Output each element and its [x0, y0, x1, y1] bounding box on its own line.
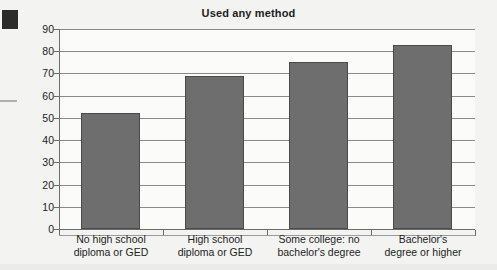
y-axis-tick-mark — [54, 51, 59, 52]
y-axis-tick-mark — [54, 207, 59, 208]
y-axis-tick-label: 70 — [28, 67, 54, 79]
x-axis-category-label: Some college: nobachelor's degree — [267, 233, 371, 259]
bar-chart-figure: Used any method 0102030405060708090 No h… — [0, 0, 497, 270]
x-axis-category-label: Bachelor'sdegree or higher — [371, 233, 475, 259]
y-axis-tick-mark — [54, 162, 59, 163]
y-axis-tick-label: 90 — [28, 23, 54, 35]
y-axis-tick-label: 30 — [28, 156, 54, 168]
chart-title: Used any method — [0, 7, 497, 19]
scan-bottom-edge — [0, 264, 497, 270]
x-axis-label-line: No high school — [59, 233, 163, 246]
bar — [81, 113, 140, 229]
bar — [185, 76, 244, 229]
y-axis-tick-label: 80 — [28, 45, 54, 57]
x-axis-label-line: diploma or GED — [163, 246, 267, 259]
y-axis-line — [59, 29, 60, 230]
x-axis-label-line: Some college: no — [267, 233, 371, 246]
bar — [393, 45, 452, 229]
y-axis-tick-mark — [54, 29, 59, 30]
y-axis-tick-label: 20 — [28, 179, 54, 191]
x-axis-label-line: Bachelor's — [371, 233, 475, 246]
x-axis-label-line: diploma or GED — [59, 246, 163, 259]
y-axis-tick-mark — [54, 73, 59, 74]
scan-artifact-dash — [0, 100, 17, 102]
x-axis-category-label: No high schooldiploma or GED — [59, 233, 163, 259]
y-axis-tick-label: 40 — [28, 134, 54, 146]
y-axis-tick-mark — [54, 118, 59, 119]
y-axis-tick-label: 60 — [28, 90, 54, 102]
y-axis-tick-label: 50 — [28, 112, 54, 124]
y-axis-tick-mark — [54, 96, 59, 97]
x-axis-label-line: degree or higher — [371, 246, 475, 259]
y-axis-tick-mark — [54, 140, 59, 141]
y-axis-tick-mark — [54, 185, 59, 186]
y-axis-tick-label: 10 — [28, 201, 54, 213]
x-axis-category-label: High schooldiploma or GED — [163, 233, 267, 259]
x-axis-label-line: High school — [163, 233, 267, 246]
y-axis-tick-label: 0 — [28, 223, 54, 235]
gridline — [59, 29, 475, 30]
y-axis-tick-labels: 0102030405060708090 — [22, 29, 54, 229]
x-axis-label-line: bachelor's degree — [267, 246, 371, 259]
bar — [289, 62, 348, 229]
x-axis-end-tick — [475, 230, 476, 236]
